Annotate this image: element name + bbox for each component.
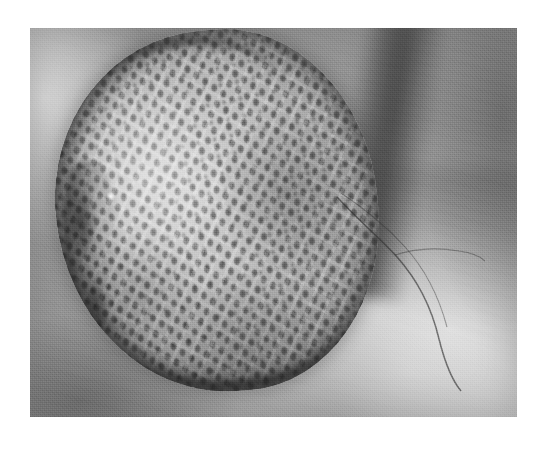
plate-vignette [30, 28, 517, 417]
figure-root [0, 0, 545, 449]
photographic-plate [30, 28, 517, 417]
